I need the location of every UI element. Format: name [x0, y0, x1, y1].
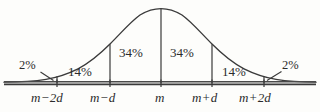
axis-label-lead: m — [239, 90, 248, 105]
region-label-left-tail: 2% — [19, 59, 36, 72]
axis-label-tail: d — [109, 90, 116, 105]
region-label-left-outer-band: 14% — [68, 65, 92, 78]
axis-label-op: + — [201, 90, 210, 105]
axis-label-lead: m — [90, 90, 99, 105]
axis-label-lead: m — [192, 90, 201, 105]
axis-label-op: − — [40, 90, 49, 105]
axis-label-tail: 2d — [50, 90, 63, 105]
axis-label-op — [164, 90, 166, 105]
axis-label-lead: m — [31, 90, 40, 105]
normal-distribution-figure: 2% 14% 34% 34% 14% 2% m−2d m−d m m+d m+2… — [0, 0, 320, 112]
region-label-right-inner-band: 34% — [170, 46, 194, 59]
axis-label-tail: 2d — [258, 90, 271, 105]
axis-label-m: m — [155, 91, 166, 104]
axis-label-m-minus-d: m−d — [90, 91, 115, 104]
region-label-right-outer-band: 14% — [222, 65, 246, 78]
axis-label-op: − — [99, 90, 108, 105]
axis-label-m-minus-2d: m−2d — [31, 91, 63, 104]
axis-label-op: + — [248, 90, 257, 105]
bell-curve-path — [4, 9, 316, 83]
axis-label-m-plus-d: m+d — [192, 91, 217, 104]
axis-label-lead: m — [155, 90, 164, 105]
region-label-right-tail: 2% — [282, 59, 299, 72]
region-label-left-inner-band: 34% — [119, 46, 143, 59]
axis-label-m-plus-2d: m+2d — [239, 91, 271, 104]
axis-label-tail: d — [211, 90, 218, 105]
